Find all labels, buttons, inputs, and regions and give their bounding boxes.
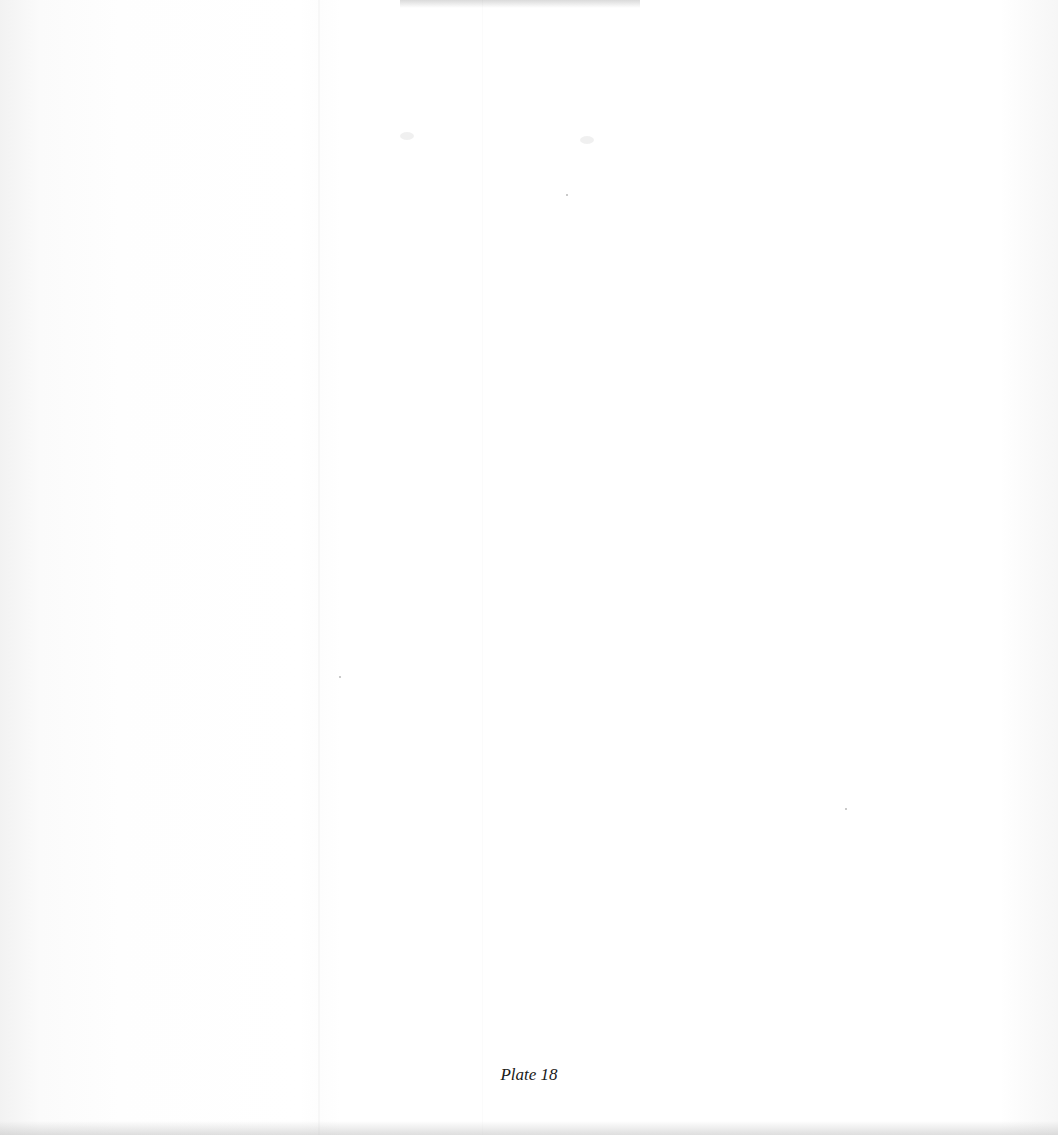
paper-speck — [566, 194, 568, 196]
show-through-mark — [400, 132, 414, 140]
page-fold-line — [318, 0, 320, 1135]
paper-speck — [339, 676, 341, 678]
show-through-text — [400, 0, 640, 8]
scanned-page: Plate 18 — [0, 0, 1058, 1135]
page-crease — [482, 0, 483, 1135]
show-through-mark — [580, 136, 594, 144]
page-bottom-edge — [0, 1121, 1058, 1135]
plate-caption: Plate 18 — [0, 1065, 1058, 1085]
paper-speck — [845, 808, 847, 810]
